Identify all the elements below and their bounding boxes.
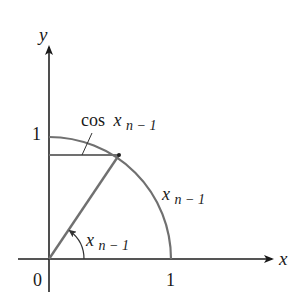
y-tick-label-1: 1 (32, 124, 41, 144)
x-axis-label: x (278, 248, 288, 269)
arc-label-sub: n − 1 (175, 192, 205, 207)
x-tick-label-1: 1 (166, 270, 175, 290)
y-axis-label: y (37, 24, 48, 45)
arc-label-var: x (161, 184, 170, 204)
cos-label-var: x (113, 110, 122, 130)
origin-label: 0 (33, 270, 42, 290)
unit-circle-diagram: y x 0 1 1 cos x n − 1 x n − 1 x n − 1 (0, 0, 300, 304)
angle-label: x n − 1 (85, 230, 129, 253)
angle-arc (70, 231, 84, 259)
angle-label-sub: n − 1 (99, 238, 129, 253)
cos-label: cos x n − 1 (81, 110, 156, 133)
cos-label-sub: n − 1 (126, 118, 156, 133)
angle-label-var: x (85, 230, 94, 250)
cos-label-fn: cos (81, 110, 105, 130)
arc-length-label: x n − 1 (161, 184, 205, 207)
arc-point (117, 153, 121, 157)
